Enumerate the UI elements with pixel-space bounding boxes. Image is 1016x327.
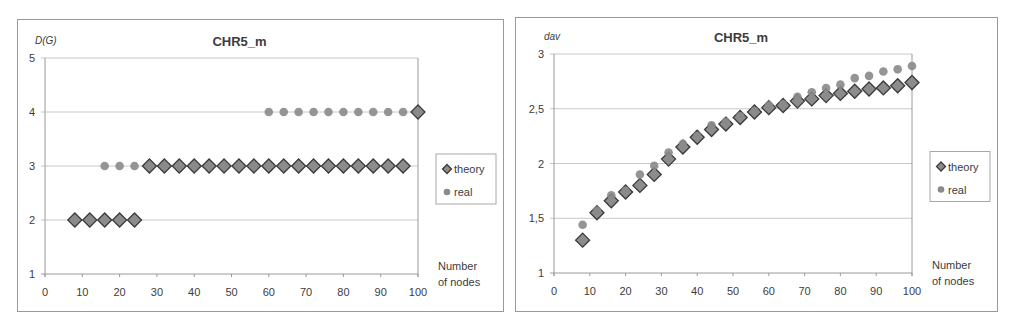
series-theory	[576, 75, 919, 247]
theory-point	[262, 159, 276, 173]
theory-point	[862, 82, 876, 96]
x-axis-label: Number	[932, 259, 971, 271]
x-tick-label: 100	[903, 285, 921, 297]
real-point	[636, 170, 645, 179]
real-point	[736, 112, 745, 121]
theory-point	[351, 159, 365, 173]
x-tick-label: 0	[551, 285, 557, 297]
x-axis-label: of nodes	[438, 276, 481, 288]
real-point	[85, 216, 94, 225]
real-point	[384, 108, 393, 117]
real-point	[664, 148, 673, 157]
x-tick-label: 40	[691, 285, 703, 297]
real-point	[836, 80, 845, 89]
x-tick-label: 80	[834, 285, 846, 297]
theory-point	[905, 75, 919, 89]
real-point	[235, 162, 244, 171]
real-point	[414, 108, 423, 117]
x-tick-label: 60	[763, 285, 775, 297]
x-tick-label: 90	[375, 286, 387, 298]
theory-point	[307, 159, 321, 173]
real-point	[593, 206, 602, 215]
real-point	[265, 108, 274, 117]
theory-point	[396, 159, 410, 173]
real-point	[294, 108, 303, 117]
x-tick-label: 10	[584, 285, 596, 297]
legend: theoryreal	[436, 154, 496, 204]
x-tick-label: 50	[727, 285, 739, 297]
legend-label-theory: theory	[948, 161, 979, 173]
y-axis-label: dav	[544, 31, 561, 42]
real-point	[279, 108, 288, 117]
real-point	[369, 108, 378, 117]
theory-point	[277, 159, 291, 173]
real-point	[893, 65, 902, 74]
y-axis-label: D(G)	[35, 35, 57, 46]
real-point	[399, 108, 408, 117]
y-tick-label: 3	[538, 48, 544, 60]
legend: theoryreal	[930, 152, 990, 202]
real-point	[145, 162, 154, 171]
theory-point	[292, 159, 306, 173]
real-point	[250, 162, 259, 171]
theory-point	[891, 79, 905, 93]
real-point	[175, 162, 184, 171]
x-tick-label: 100	[409, 286, 427, 298]
real-point	[130, 162, 139, 171]
y-tick-label: 1	[538, 267, 544, 279]
y-tick-label: 4	[29, 106, 35, 118]
circle-icon	[938, 186, 945, 193]
legend-label-real: real	[948, 184, 966, 196]
chart-left-d-of-g: CHR5_mD(G)123450102030405060708090100Num…	[17, 19, 504, 312]
y-tick-label: 2	[538, 158, 544, 170]
x-tick-label: 70	[300, 286, 312, 298]
real-point	[879, 67, 888, 76]
theory-point	[848, 84, 862, 98]
legend-label-theory: theory	[454, 163, 485, 175]
x-tick-label: 40	[188, 286, 200, 298]
x-tick-label: 20	[619, 285, 631, 297]
x-tick-label: 0	[42, 286, 48, 298]
real-point	[750, 107, 759, 116]
real-point	[220, 162, 229, 171]
chart-left-canvas: CHR5_mD(G)123450102030405060708090100Num…	[18, 20, 503, 311]
chart-right-dav: CHR5_mdav11,522,530102030405060708090100…	[515, 17, 998, 312]
real-point	[100, 162, 109, 171]
legend-label-real: real	[454, 186, 472, 198]
chart-title: CHR5_m	[714, 30, 768, 45]
y-tick-label: 1,5	[529, 212, 544, 224]
theory-point	[336, 159, 350, 173]
real-point	[693, 132, 702, 141]
theory-point	[366, 159, 380, 173]
x-tick-label: 10	[76, 286, 88, 298]
theory-point	[633, 178, 647, 192]
chart-title: CHR5_m	[212, 34, 266, 49]
x-tick-label: 30	[151, 286, 163, 298]
real-point	[865, 72, 874, 81]
real-point	[339, 108, 348, 117]
theory-point	[576, 233, 590, 247]
circle-icon	[444, 189, 451, 196]
x-tick-label: 20	[113, 286, 125, 298]
x-axis-label: Number	[438, 260, 477, 272]
theory-point	[381, 159, 395, 173]
theory-point	[113, 213, 127, 227]
real-point	[679, 139, 688, 148]
x-tick-label: 60	[263, 286, 275, 298]
x-tick-label: 50	[225, 286, 237, 298]
x-tick-label: 90	[870, 285, 882, 297]
real-point	[807, 88, 816, 97]
real-point	[908, 62, 917, 71]
y-tick-label: 3	[29, 160, 35, 172]
real-point	[722, 118, 731, 127]
theory-point	[128, 213, 142, 227]
x-tick-label: 30	[655, 285, 667, 297]
real-point	[650, 161, 659, 170]
real-point	[822, 84, 831, 93]
real-point	[707, 121, 716, 130]
y-tick-label: 5	[29, 52, 35, 64]
real-point	[779, 100, 788, 109]
real-point	[850, 74, 859, 83]
real-point	[160, 162, 169, 171]
real-point	[71, 216, 80, 225]
